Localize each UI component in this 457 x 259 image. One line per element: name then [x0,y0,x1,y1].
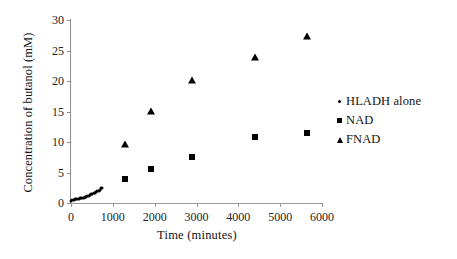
legend-item-label: NAD [346,113,373,128]
x-tick-label: 1000 [101,210,125,225]
x-tick-label: 0 [68,210,74,225]
dot-marker-icon [333,100,346,103]
x-tick-mark [238,203,239,207]
x-tick-label: 2000 [143,210,167,225]
data-point-square [122,176,128,182]
legend-item[interactable]: FNAD [333,130,453,149]
data-point-square [189,154,195,160]
x-tick-mark [322,203,323,207]
x-tick-label: 4000 [226,210,250,225]
legend-item-label: FNAD [346,132,380,147]
data-point-triangle [251,54,259,61]
x-tick-mark [155,203,156,207]
y-tick-label: 25 [52,43,64,58]
x-tick-mark [280,203,281,207]
y-tick-label: 5 [58,165,64,180]
y-axis-title: Concentration of butanol (mM) [21,13,36,213]
data-point-triangle [147,107,155,114]
x-tick-label: 6000 [310,210,334,225]
y-tick-label: 15 [52,104,64,119]
square-marker-icon [333,118,346,123]
y-tick-label: 0 [58,196,64,211]
data-point-square [148,166,154,172]
x-tick-mark [197,203,198,207]
data-point-triangle [121,140,129,147]
y-tick-label: 30 [52,13,64,28]
x-tick-mark [71,203,72,207]
data-point-triangle [188,77,196,84]
y-tick-mark [67,112,71,113]
y-tick-mark [67,142,71,143]
y-tick-label: 10 [52,135,64,150]
legend-item[interactable]: HLADH alone [333,92,453,111]
x-tick-label: 3000 [185,210,209,225]
chart-figure: Concentration of butanol (mM) Time (minu… [0,0,457,259]
y-tick-mark [67,173,71,174]
x-tick-mark [113,203,114,207]
plot-area: 051015202530 0100020003000400050006000 [71,20,322,203]
y-tick-mark [67,51,71,52]
triangle-marker-icon [333,137,346,143]
x-tick-label: 5000 [268,210,292,225]
chart-legend: HLADH aloneNADFNAD [333,92,453,149]
legend-item[interactable]: NAD [333,111,453,130]
x-axis-title: Time (minutes) [71,228,323,243]
data-point-triangle [303,33,311,40]
legend-item-label: HLADH alone [346,94,421,109]
data-point-square [304,130,310,136]
y-tick-mark [67,20,71,21]
data-point-square [252,134,258,140]
y-tick-mark [67,81,71,82]
data-point-dot [100,186,103,189]
y-tick-label: 20 [52,74,64,89]
